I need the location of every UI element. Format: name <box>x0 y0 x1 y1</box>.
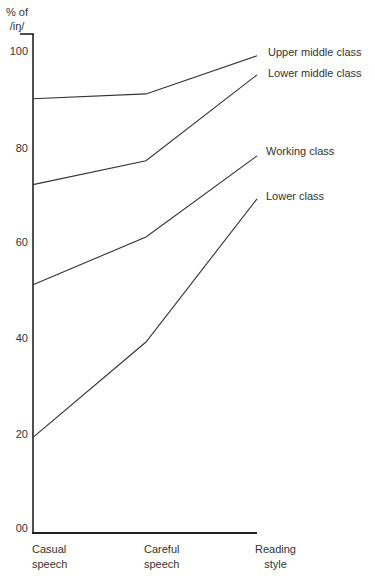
series-line-lower-class <box>33 199 257 438</box>
series-label-working-class: Working class <box>266 145 334 157</box>
x-tick-line: speech <box>32 557 67 572</box>
x-tick-line: Careful <box>144 542 179 557</box>
x-tick-line: Reading <box>255 542 296 557</box>
x-tick-line: style <box>255 557 296 572</box>
series-label-upper-middle-class: Upper middle class <box>268 46 362 58</box>
plot-area <box>0 0 375 587</box>
series-line-working-class <box>33 156 257 285</box>
x-tick-casual-speech: Casual speech <box>32 542 67 572</box>
x-tick-reading-style: Reading style <box>255 542 296 572</box>
series-label-lower-middle-class: Lower middle class <box>268 67 362 79</box>
series-label-lower-class: Lower class <box>266 190 324 202</box>
series-lines <box>33 56 257 438</box>
x-tick-line: Casual <box>32 542 67 557</box>
axes <box>20 34 257 533</box>
series-line-upper-middle-class <box>33 56 257 99</box>
series-line-lower-middle-class <box>33 75 257 185</box>
x-tick-line: speech <box>144 557 179 572</box>
x-tick-careful-speech: Careful speech <box>144 542 179 572</box>
